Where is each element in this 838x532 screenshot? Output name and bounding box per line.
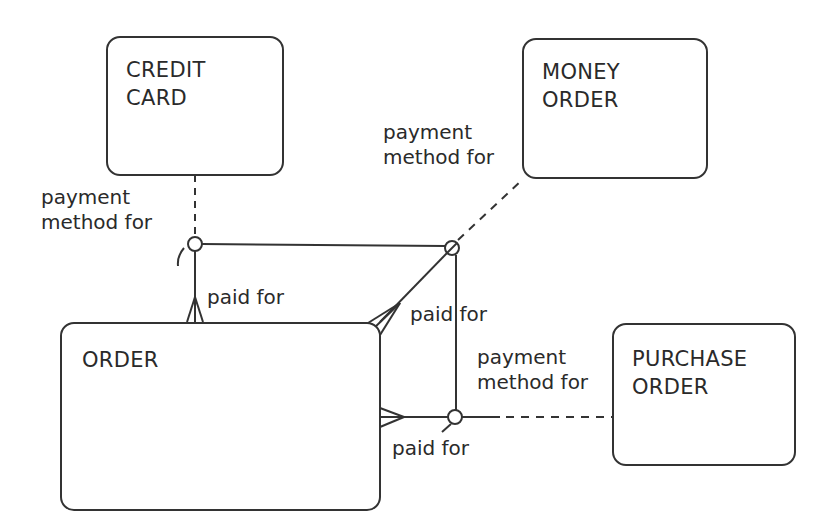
po-paid-label: paid for bbox=[392, 436, 469, 461]
entity-money-order: MONEY ORDER bbox=[522, 38, 708, 179]
entity-name: ORDER bbox=[82, 346, 159, 374]
po-payment-label: payment method for bbox=[477, 345, 588, 395]
cc-payment-label: payment method for bbox=[41, 185, 152, 235]
mo-dashed-line bbox=[458, 180, 522, 240]
exclusive-junction-po bbox=[448, 410, 462, 424]
entity-credit-card: CREDIT CARD bbox=[106, 36, 284, 176]
exclusive-junction-cc bbox=[188, 237, 202, 251]
mo-paid-label: paid for bbox=[410, 302, 487, 327]
entity-name: MONEY ORDER bbox=[542, 58, 620, 114]
entity-name: PURCHASE ORDER bbox=[632, 345, 747, 401]
cc-paid-label: paid for bbox=[207, 285, 284, 310]
mo-payment-label: payment method for bbox=[383, 120, 494, 170]
exclusive-arc bbox=[178, 248, 184, 266]
junction-bar bbox=[202, 244, 445, 246]
entity-purchase-order: PURCHASE ORDER bbox=[612, 323, 796, 466]
entity-order: ORDER bbox=[60, 322, 381, 511]
entity-name: CREDIT CARD bbox=[126, 56, 206, 112]
